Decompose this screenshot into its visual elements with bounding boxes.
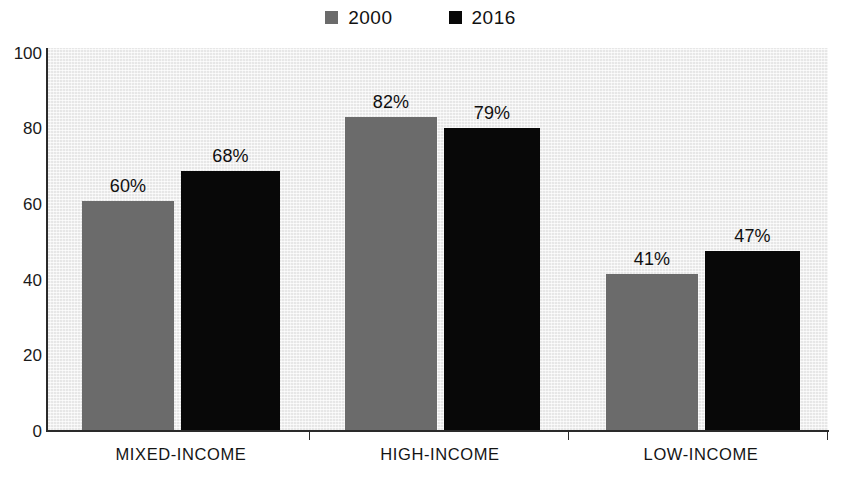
x-tick-divider-1 <box>309 431 310 440</box>
plot-area <box>47 48 828 431</box>
bar-mixed-income-2016-value-label: 68% <box>212 147 249 165</box>
category-label-mixed-income: MIXED-INCOME <box>116 446 247 463</box>
bar-mixed-income-2000 <box>82 201 174 431</box>
legend-swatch-2016 <box>449 11 462 24</box>
legend-label-2016: 2016 <box>472 8 516 27</box>
bar-high-income-2016-value-label: 79% <box>474 104 511 122</box>
legend-item-2000: 2000 <box>325 8 392 27</box>
y-tick-20: 20 <box>4 347 42 364</box>
bar-high-income-2016 <box>444 128 540 431</box>
bar-high-income-2000 <box>345 117 437 431</box>
x-tick-divider-3 <box>827 431 828 440</box>
y-axis-line <box>46 48 48 431</box>
y-tick-0: 0 <box>4 423 42 440</box>
y-axis-tick-labels: 100 80 60 40 20 0 <box>0 0 42 479</box>
y-tick-80: 80 <box>4 120 42 137</box>
y-tick-40: 40 <box>4 272 42 289</box>
category-label-high-income: HIGH-INCOME <box>380 446 499 463</box>
x-axis-line <box>46 430 829 432</box>
chart-legend: 2000 2016 <box>0 4 841 30</box>
legend-swatch-2000 <box>325 11 338 24</box>
bar-chart: 2000 2016 100 80 60 40 20 0 MIXED-INCOME… <box>0 0 841 479</box>
bar-low-income-2000 <box>606 274 698 431</box>
x-tick-divider-2 <box>568 431 569 440</box>
bar-high-income-2000-value-label: 82% <box>373 93 410 111</box>
y-tick-60: 60 <box>4 196 42 213</box>
legend-label-2000: 2000 <box>348 8 392 27</box>
y-tick-100: 100 <box>4 45 42 62</box>
bar-low-income-2000-value-label: 41% <box>634 250 671 268</box>
bar-mixed-income-2000-value-label: 60% <box>110 177 147 195</box>
bar-low-income-2016-value-label: 47% <box>734 227 771 245</box>
bar-mixed-income-2016 <box>181 171 280 431</box>
bar-low-income-2016 <box>705 251 800 431</box>
legend-item-2016: 2016 <box>449 8 516 27</box>
category-label-low-income: LOW-INCOME <box>644 446 759 463</box>
